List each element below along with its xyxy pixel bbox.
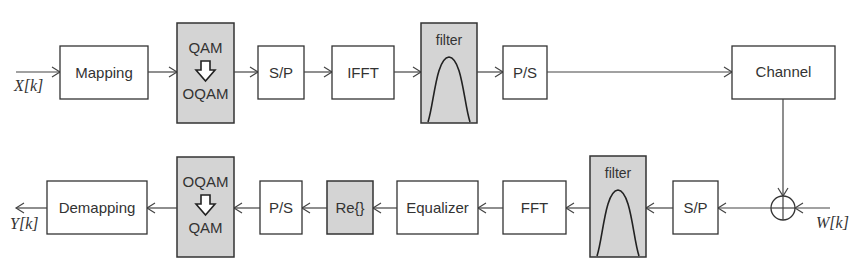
arrow-filter-to-ps bbox=[477, 67, 503, 77]
ofdm-oqam-diagram: X[k] Mapping QAM OQAM S/P IFFT filter bbox=[0, 0, 862, 270]
block-demapping: Demapping bbox=[47, 181, 147, 234]
arrow-sp-to-ifft bbox=[304, 67, 332, 77]
block-channel: Channel bbox=[732, 46, 835, 99]
block-filter-rx: filter bbox=[590, 156, 646, 257]
arrow-ps-to-oqam bbox=[234, 203, 260, 213]
arrow-re-to-ps bbox=[302, 203, 327, 213]
svg-text:OQAM: OQAM bbox=[183, 85, 229, 102]
svg-text:Equalizer: Equalizer bbox=[406, 199, 469, 216]
svg-text:IFFT: IFFT bbox=[347, 64, 379, 81]
arrow-mapping-to-qam bbox=[148, 67, 177, 77]
diagram-canvas: X[k] Mapping QAM OQAM S/P IFFT filter bbox=[0, 0, 862, 270]
arrow-adder-to-sp bbox=[718, 203, 771, 213]
svg-text:filter: filter bbox=[436, 32, 463, 48]
block-fft: FFT bbox=[503, 181, 566, 234]
svg-text:S/P: S/P bbox=[269, 64, 293, 81]
output-arrow bbox=[16, 203, 47, 213]
block-ifft: IFFT bbox=[332, 46, 394, 99]
block-ps-tx: P/S bbox=[503, 46, 547, 99]
block-oqam-to-qam: OQAM QAM bbox=[177, 157, 234, 257]
block-sp-tx: S/P bbox=[258, 46, 304, 99]
input-arrow bbox=[16, 67, 60, 77]
arrow-filter-to-fft bbox=[566, 203, 590, 213]
svg-text:FFT: FFT bbox=[521, 199, 549, 216]
arrow-qam-to-sp bbox=[234, 67, 258, 77]
block-sp-rx: S/P bbox=[673, 181, 718, 234]
svg-text:Demapping: Demapping bbox=[59, 199, 136, 216]
block-mapping: Mapping bbox=[60, 46, 148, 99]
arrow-equalizer-to-re bbox=[373, 203, 397, 213]
svg-text:P/S: P/S bbox=[269, 199, 293, 216]
svg-text:S/P: S/P bbox=[683, 199, 707, 216]
arrow-sp-to-filter bbox=[646, 203, 673, 213]
svg-text:OQAM: OQAM bbox=[183, 173, 229, 190]
block-re: Re{} bbox=[327, 181, 373, 234]
arrow-oqam-to-demapping bbox=[147, 203, 177, 213]
block-filter-tx: filter bbox=[421, 23, 477, 123]
noise-arrow bbox=[795, 203, 830, 213]
input-label: X[k] bbox=[13, 77, 43, 94]
output-label: Y[k] bbox=[10, 215, 38, 232]
block-ps-rx: P/S bbox=[260, 181, 302, 234]
block-qam-to-oqam: QAM OQAM bbox=[177, 23, 234, 123]
svg-text:Mapping: Mapping bbox=[75, 64, 133, 81]
arrow-ifft-to-filter bbox=[394, 67, 421, 77]
svg-text:QAM: QAM bbox=[188, 219, 222, 236]
adder bbox=[771, 196, 795, 220]
svg-text:QAM: QAM bbox=[188, 39, 222, 56]
svg-text:Channel: Channel bbox=[756, 63, 812, 80]
svg-text:Re{}: Re{} bbox=[335, 199, 364, 216]
svg-text:P/S: P/S bbox=[513, 64, 537, 81]
noise-label: W[k] bbox=[816, 214, 849, 231]
arrow-fft-to-equalizer bbox=[478, 203, 503, 213]
svg-text:filter: filter bbox=[605, 165, 632, 181]
arrow-channel-to-adder bbox=[778, 99, 788, 196]
arrow-ps-to-channel bbox=[547, 67, 732, 77]
block-equalizer: Equalizer bbox=[397, 181, 478, 234]
